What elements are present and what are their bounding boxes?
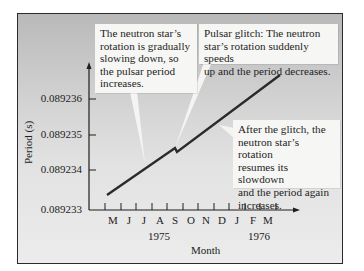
callout-line: resumes its slowdown [238, 161, 336, 186]
x-tick-label: D [215, 214, 229, 226]
y-axis-arrow-icon [87, 62, 92, 69]
year-label-1975: 1975 [148, 230, 170, 242]
y-tick-label: 0.089234 [12, 163, 82, 175]
callout-line: The neutron star’s [100, 27, 193, 40]
callout-line: up and the period decreases. [204, 65, 334, 78]
x-tick-label: F [246, 214, 260, 226]
x-tick-label: S [168, 214, 182, 226]
callout-glitch: Pulsar glitch: The neutron star’s rotati… [199, 24, 338, 64]
callout-line: slowing down, so [100, 52, 193, 65]
x-tick-label: M [261, 214, 275, 226]
callout-pointer-slowdown [130, 92, 145, 164]
callout-slowdown: The neutron star’s rotation is gradually… [95, 24, 197, 93]
callout-after-glitch: After the glitch, the neutron star’s rot… [233, 120, 340, 188]
chart-figure: 0.089236 0.089235 0.089234 0.089233 Peri… [0, 0, 364, 271]
y-axis-label: Period (s) [22, 121, 34, 164]
x-tick-label: N [199, 214, 213, 226]
x-axis-label: Month [191, 244, 220, 256]
year-label-1976: 1976 [248, 230, 270, 242]
x-tick-label: A [153, 214, 167, 226]
callout-line: and the period again [238, 186, 336, 199]
callout-line: increases. [238, 199, 336, 212]
callout-line: rotation is gradually [100, 40, 193, 53]
x-tick-label: M [106, 214, 120, 226]
x-tick-label: J [122, 214, 136, 226]
callout-line: After the glitch, the [238, 123, 336, 136]
y-tick-label: 0.089236 [12, 92, 82, 104]
y-tick-label: 0.089233 [12, 203, 82, 215]
callout-line: increases. [100, 77, 193, 90]
callout-line: Pulsar glitch: The neutron [204, 27, 334, 40]
callout-line: the pulsar period [100, 65, 193, 78]
callout-line: star’s rotation suddenly speeds [204, 40, 334, 65]
callout-pointer-after [219, 125, 234, 138]
callout-line: neutron star’s rotation [238, 136, 336, 161]
x-tick-label: J [137, 214, 151, 226]
x-tick-label: O [184, 214, 198, 226]
x-tick-label: J [230, 214, 244, 226]
